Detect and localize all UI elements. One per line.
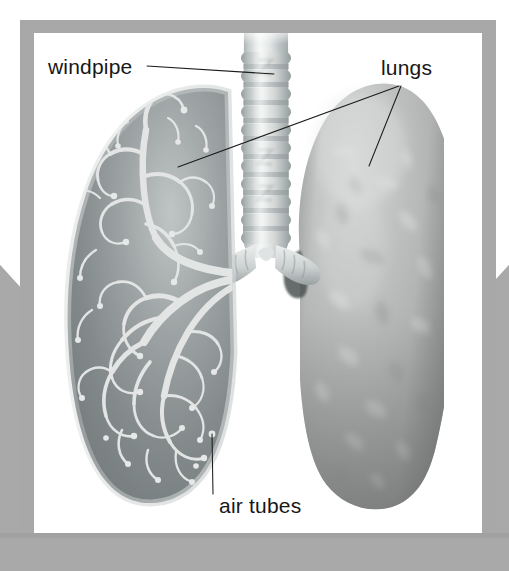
label-windpipe: windpipe xyxy=(47,55,133,78)
label-lungs: lungs xyxy=(381,56,432,79)
bottom-band-shade xyxy=(0,533,509,538)
bottom-band xyxy=(0,533,509,571)
trachea xyxy=(240,28,292,258)
trachea-highlight xyxy=(256,30,265,256)
trachea-rings xyxy=(241,52,291,244)
frame-left-wedge-inner xyxy=(0,265,20,533)
lungs-diagram-figure: windpipe lungs air tubes xyxy=(0,0,509,571)
diagram-canvas: windpipe lungs air tubes xyxy=(0,0,509,571)
label-air-tubes: air tubes xyxy=(219,494,301,517)
